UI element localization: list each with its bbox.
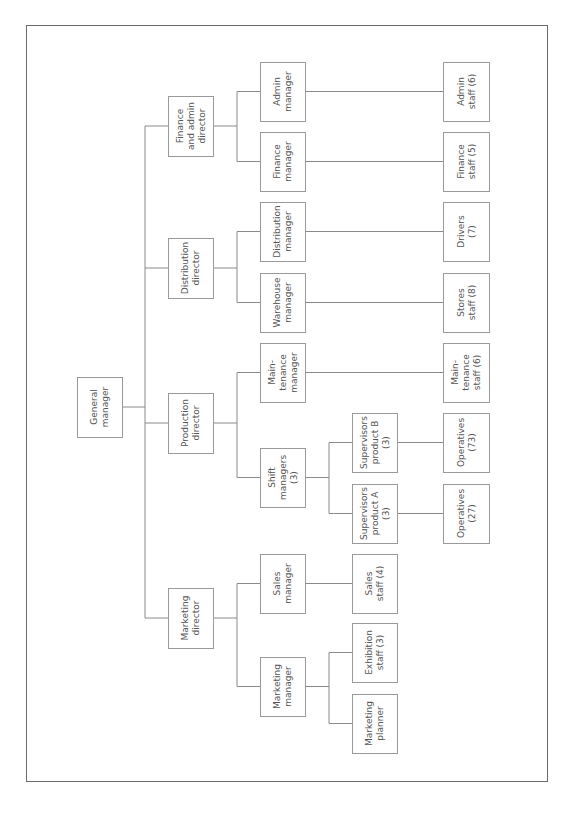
node-label: Financeand admindirector	[175, 102, 207, 150]
org-node-gm: Generalmanager	[78, 378, 123, 438]
node-label: Generalmanager	[89, 386, 110, 427]
org-node-dm: Distributionmanager	[261, 203, 306, 262]
org-node-fm: Financemanager	[261, 133, 306, 192]
org-node-mm: Marketingmanager	[261, 658, 306, 717]
node-label: Warehousemanager	[272, 277, 293, 327]
node-label: Distributionmanager	[272, 205, 293, 258]
org-node-md: Marketingdirector	[169, 589, 214, 649]
org-node-fad: Financeand admindirector	[169, 97, 214, 157]
node-label: Financestaff (5)	[456, 144, 477, 180]
node-label: Marketingdirector	[180, 596, 201, 641]
org-node-opa: Operatives(27)	[444, 485, 490, 544]
org-node-dd: Distributiondirector	[169, 239, 214, 299]
org-node-mtm: Main-tenancemanager	[261, 344, 306, 403]
org-node-ss: Salesstaff (4)	[353, 555, 398, 614]
node-label: Exhibitionstaff (3)	[364, 630, 385, 675]
org-nodes: GeneralmanagerFinanceand admindirectorDi…	[78, 63, 490, 754]
org-chart: GeneralmanagerFinanceand admindirectorDi…	[0, 0, 565, 815]
org-node-sts: Storesstaff (8)	[444, 274, 490, 333]
org-node-sm: Shiftmanagers(3)	[261, 449, 306, 508]
org-node-es: Exhibitionstaff (3)	[353, 624, 398, 683]
node-label: Productiondirector	[180, 399, 201, 447]
org-node-am: Adminmanager	[261, 63, 306, 122]
org-node-fst: Financestaff (5)	[444, 133, 490, 192]
org-node-mp: Marketingplanner	[353, 695, 398, 754]
org-node-spb: Supervisorsproduct B(3)	[353, 414, 398, 473]
org-node-pd: Productiondirector	[169, 394, 214, 454]
org-node-opb: Operatives(73)	[444, 414, 490, 473]
node-label: Financemanager	[272, 141, 293, 182]
node-label: Storesstaff (8)	[456, 285, 477, 321]
org-node-mts: Main-tenancestaff (6)	[444, 344, 490, 403]
org-node-drv: Drivers(7)	[444, 203, 490, 262]
org-node-slm: Salesmanager	[261, 555, 306, 614]
node-label: Marketingplanner	[364, 701, 385, 746]
org-node-wm: Warehousemanager	[261, 274, 306, 333]
node-label: Marketingmanager	[272, 664, 293, 709]
org-node-ast: Adminstaff (6)	[444, 63, 490, 122]
org-node-spa: Supervisorsproduct A(3)	[353, 485, 398, 544]
node-label: Adminstaff (6)	[456, 74, 477, 110]
